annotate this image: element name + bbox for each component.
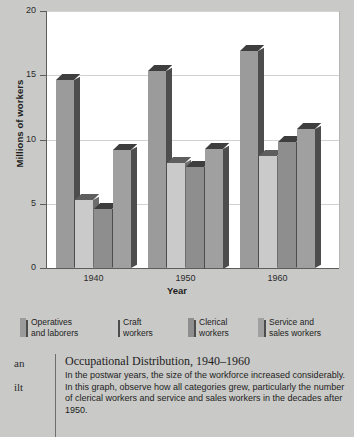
y-axis-tick xyxy=(40,268,46,269)
bar-front-face xyxy=(259,156,277,268)
y-axis-tick xyxy=(40,204,46,205)
bar-1960-craft-workers xyxy=(259,156,277,268)
y-axis-tick xyxy=(40,75,46,76)
y-axis-tick-label: 10 xyxy=(6,135,36,144)
caption-title: Occupational Distribution, 1940–1960 xyxy=(65,354,354,368)
y-axis-line xyxy=(46,11,47,269)
margin-text-fragment: an xyxy=(14,357,24,369)
bar-1950-operatives-and-laborers xyxy=(148,71,166,268)
bar-1960-operatives-and-laborers xyxy=(240,51,258,268)
gridline xyxy=(46,75,339,76)
legend-item-label: Service and sales workers xyxy=(269,317,321,338)
bar-1950-service-and-sales-workers xyxy=(205,149,223,269)
bar-chart-figure: Millions of workers Year 05101520 194019… xyxy=(0,0,354,300)
y-axis-tick-label: 20 xyxy=(6,6,36,15)
bar-1940-operatives-and-laborers xyxy=(56,80,74,268)
legend-swatch-icon xyxy=(258,318,264,337)
x-axis-label-1950: 1950 xyxy=(156,273,216,283)
margin-text-fragment: ilt xyxy=(14,381,23,393)
bar-1940-clerical-workers xyxy=(94,209,112,268)
legend-item-service-and: Service and sales workers xyxy=(258,317,321,338)
bar-1950-craft-workers xyxy=(167,163,185,268)
legend-item-label: Operatives and laborers xyxy=(31,317,78,338)
x-axis-title: Year xyxy=(0,285,354,296)
caption-body: In the postwar years, the size of the wo… xyxy=(65,370,354,416)
y-axis-tick-label: 15 xyxy=(6,70,36,79)
bar-1940-service-and-sales-workers xyxy=(113,150,131,268)
y-axis-tick xyxy=(40,140,46,141)
chart-legend: Operatives and laborersCraft workersCler… xyxy=(20,317,350,347)
legend-swatch-icon xyxy=(20,318,26,337)
bar-front-face xyxy=(297,129,315,268)
legend-item-craft: Craft workers xyxy=(112,317,153,338)
y-axis-tick xyxy=(40,11,46,12)
legend-item-label: Craft workers xyxy=(123,317,153,338)
y-axis-tick-label: 0 xyxy=(6,263,36,272)
bar-side-face xyxy=(223,145,229,268)
y-axis-title: Millions of workers xyxy=(14,64,25,184)
bar-side-face xyxy=(131,147,137,268)
bar-front-face xyxy=(113,150,131,268)
legend-item-operatives: Operatives and laborers xyxy=(20,317,78,338)
bar-front-face xyxy=(240,51,258,268)
bar-1960-clerical-workers xyxy=(278,142,296,268)
gridline xyxy=(46,11,339,12)
bar-front-face xyxy=(186,167,204,269)
bar-front-face xyxy=(75,200,93,268)
bar-front-face xyxy=(94,209,112,268)
bar-side-face xyxy=(315,126,321,268)
bar-1940-craft-workers xyxy=(75,200,93,268)
bar-front-face xyxy=(56,80,74,268)
legend-swatch-icon xyxy=(112,318,118,337)
bar-1950-clerical-workers xyxy=(186,167,204,269)
bar-front-face xyxy=(167,163,185,268)
legend-item-clerical: Clerical workers xyxy=(188,317,229,338)
bar-front-face xyxy=(148,71,166,268)
y-axis-tick-label: 5 xyxy=(6,199,36,208)
bar-front-face xyxy=(278,142,296,268)
x-axis-label-1940: 1940 xyxy=(64,273,124,283)
x-axis-label-1960: 1960 xyxy=(248,273,308,283)
legend-item-label: Clerical workers xyxy=(199,317,229,338)
caption-block: Occupational Distribution, 1940–1960 In … xyxy=(55,354,354,437)
bar-1960-service-and-sales-workers xyxy=(297,129,315,268)
legend-swatch-icon xyxy=(188,318,194,337)
bar-front-face xyxy=(205,149,223,269)
